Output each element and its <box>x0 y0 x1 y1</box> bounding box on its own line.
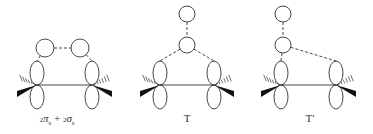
hashed-wedge-bond <box>107 75 110 81</box>
hashed-wedge-bond <box>272 80 274 84</box>
hashed-wedge-bond <box>278 83 279 85</box>
dashed-interaction-line <box>86 55 92 61</box>
s-orbital-circle <box>179 6 195 22</box>
p-orbital-lower-lobe <box>30 85 44 109</box>
dashed-interaction-line <box>37 56 40 61</box>
hashed-wedge-bond <box>148 78 150 83</box>
hashed-wedge-bond <box>229 75 232 81</box>
p-orbital-lower-lobe <box>85 85 99 109</box>
solid-wedge-bond <box>140 85 160 97</box>
solid-wedge-bond <box>92 85 112 97</box>
label-T-prime: T′ <box>270 112 350 124</box>
hashed-wedge-bond <box>99 80 101 84</box>
hashed-wedge-bond <box>226 76 228 82</box>
solid-wedge-bond <box>336 85 356 97</box>
dashed-interaction-line <box>291 47 336 61</box>
s-orbital-circle <box>275 37 291 53</box>
dashed-interaction-line <box>160 49 180 61</box>
hashed-wedge-bond <box>151 80 153 84</box>
hashed-wedge-bond <box>146 76 148 82</box>
solid-wedge-bond <box>261 85 281 97</box>
hashed-wedge-bond <box>348 76 350 82</box>
dashed-interaction-line <box>194 49 214 61</box>
solid-wedge-bond <box>17 85 37 97</box>
s-orbital-circle <box>275 6 291 22</box>
subscript-s: s <box>48 119 51 127</box>
solid-wedge-bond <box>214 85 234 97</box>
hashed-wedge-bond <box>28 80 30 84</box>
hashed-wedge-bond <box>143 75 146 81</box>
dashed-interaction-line <box>281 53 282 61</box>
hashed-wedge-bond <box>102 78 104 83</box>
hashed-wedge-bond <box>269 78 271 83</box>
subscript-s: s <box>72 119 75 127</box>
hashed-wedge-bond <box>351 75 354 81</box>
p-orbital-upper-lobe <box>30 61 44 85</box>
p-orbital-lower-lobe <box>329 85 343 109</box>
s-orbital-circle <box>36 39 54 57</box>
hashed-wedge-bond <box>346 78 348 83</box>
p-orbital-lower-lobe <box>274 85 288 109</box>
hashed-wedge-bond <box>264 75 267 81</box>
label-T: T <box>147 112 227 124</box>
hashed-wedge-bond <box>23 76 25 82</box>
s-orbital-circle <box>179 37 195 53</box>
hashed-wedge-bond <box>25 78 27 83</box>
s-orbital-circle <box>71 39 89 57</box>
p-orbital-upper-lobe <box>274 61 288 85</box>
hashed-wedge-bond <box>104 76 106 82</box>
hashed-wedge-bond <box>20 75 23 81</box>
hashed-wedge-bond <box>34 83 35 85</box>
p-orbital-lower-lobe <box>153 85 167 109</box>
hashed-wedge-bond <box>221 80 223 84</box>
p-orbital-lower-lobe <box>207 85 221 109</box>
p-orbital-upper-lobe <box>153 61 167 85</box>
hashed-wedge-bond <box>224 78 226 83</box>
label-pi-sigma: 2πs + 2σs <box>17 112 97 127</box>
hashed-wedge-bond <box>267 76 269 82</box>
hashed-wedge-bond <box>343 80 345 84</box>
hashed-wedge-bond <box>157 83 158 85</box>
plus-sign: + <box>54 112 60 124</box>
